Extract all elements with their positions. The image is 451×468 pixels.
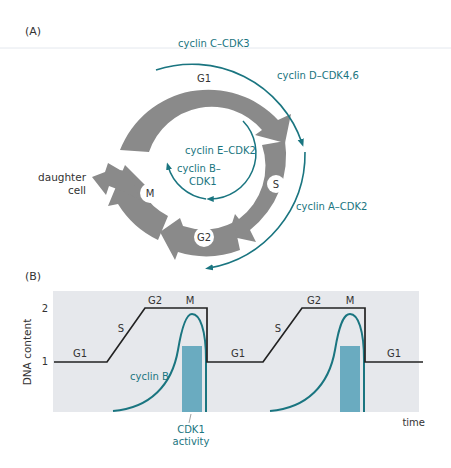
cyclin-c-cdk3-label: cyclin C–CDK3 [178, 38, 250, 49]
phase-label-g1-1: G1 [73, 348, 87, 359]
y-axis-label: DNA content [21, 319, 33, 386]
cdk1-activity-bar-1 [182, 346, 202, 412]
phase-label-s-2: S [275, 323, 281, 334]
svg-text:M: M [146, 188, 155, 199]
g1-phase-arrow [120, 90, 291, 152]
cyclin-b-curve-label: cyclin B [130, 371, 169, 382]
phase-label-g2-1: G2 [148, 295, 162, 306]
phase-badge-s: S [267, 175, 285, 193]
phase-label-m-1: M [186, 295, 195, 306]
cyclin-e-cdk2-label: cyclin E–CDK2 [185, 145, 256, 156]
phase-badge-m: M [140, 183, 160, 203]
cyclin-a-cdk2-label: cyclin A–CDK2 [296, 201, 367, 212]
cyclin-d-cdk46-label: cyclin D–CDK4,6 [277, 70, 359, 81]
panel-a-label: (A) [25, 25, 41, 38]
panel-b-label: (B) [25, 270, 41, 283]
phase-badge-g1: G1 [194, 68, 214, 88]
phase-label-g2-2: G2 [307, 295, 321, 306]
y-tick-1: 1 [42, 356, 48, 367]
phase-label-g1-2: G1 [231, 348, 245, 359]
svg-text:S: S [273, 179, 279, 190]
cell-cycle-ring [92, 90, 291, 260]
phase-label-s-1: S [118, 323, 124, 334]
svg-text:G2: G2 [197, 232, 211, 243]
phase-label-m-2: M [346, 295, 355, 306]
phase-label-g1-3: G1 [387, 348, 401, 359]
cdk1-activity-bar-2 [340, 346, 360, 412]
svg-text:G1: G1 [197, 73, 211, 84]
cdk1-leader-line [189, 414, 191, 423]
phase-badge-g2: G2 [194, 227, 214, 247]
x-axis-label: time [402, 417, 425, 428]
figure-canvas: (A) G1 S G2 M daughter cell cyclin C–CDK… [0, 0, 451, 468]
cdk1-label-line1: CDK1 [177, 424, 205, 435]
cdk1-label-line2: activity [173, 436, 210, 447]
cyclin-b-label-line2: CDK1 [189, 176, 217, 187]
cyclin-b-label-line1: cyclin B– [177, 163, 221, 174]
cyclin-e-arc [210, 121, 256, 199]
daughter-cell-label-line1: daughter [38, 171, 87, 183]
daughter-cell-label-line2: cell [68, 184, 86, 196]
y-tick-2: 2 [42, 303, 48, 314]
